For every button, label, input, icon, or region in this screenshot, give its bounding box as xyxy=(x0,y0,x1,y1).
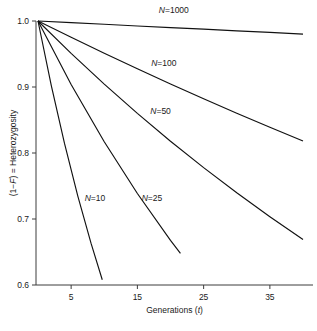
series-label-n100: N=100 xyxy=(151,58,177,68)
x-tick-label: 35 xyxy=(265,292,275,302)
series-label-n1000: N=1000 xyxy=(159,5,189,15)
x-tick-label: 15 xyxy=(133,292,143,302)
x-axis-title: Generations (t) xyxy=(146,305,203,315)
y-axis-title: (1−F) = Heterozygosity xyxy=(8,109,18,196)
series-label-n50: N=50 xyxy=(150,106,171,116)
x-tick-label: 25 xyxy=(199,292,209,302)
y-tick-label: 0.7 xyxy=(17,214,29,224)
series-label-n10: N=10 xyxy=(85,193,106,203)
chart-background xyxy=(0,0,317,331)
y-tick-label: 0.6 xyxy=(17,280,29,290)
y-tick-label: 0.9 xyxy=(17,82,29,92)
y-tick-label: 1.0 xyxy=(17,16,29,26)
y-tick-label: 0.8 xyxy=(17,148,29,158)
heterozygosity-decay-chart: 0.60.70.80.91.0 5152535 N=1000N=100N=50N… xyxy=(0,0,317,331)
series-label-n25: N=25 xyxy=(142,193,163,203)
chart-canvas: 0.60.70.80.91.0 5152535 N=1000N=100N=50N… xyxy=(0,0,317,331)
x-tick-label: 5 xyxy=(69,292,74,302)
